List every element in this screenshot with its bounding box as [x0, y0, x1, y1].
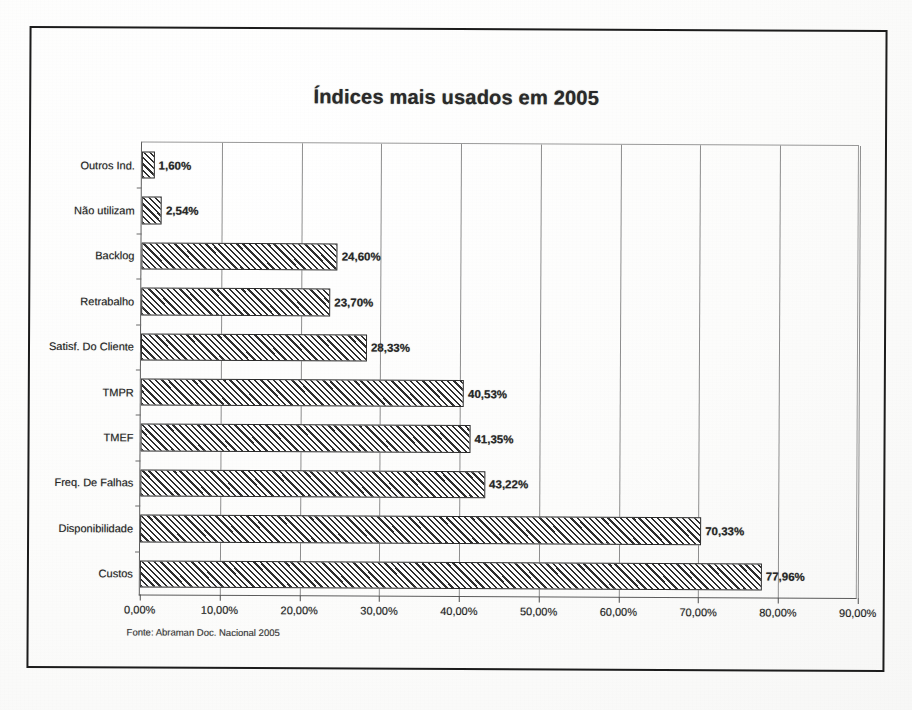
bar-value-label: 40,53% — [468, 388, 507, 400]
plot-area: 0,00%10,00%20,00%30,00%40,00%50,00%60,00… — [139, 141, 859, 599]
x-axis-label: 40,00% — [414, 605, 504, 617]
x-axis-label: 90,00% — [813, 607, 903, 619]
y-axis-tick — [137, 188, 142, 189]
scanned-page: Índices mais usados em 2005 0,00%10,00%2… — [0, 0, 912, 710]
y-axis-tick — [136, 415, 141, 416]
bar-row: Retrabalho23,70% — [141, 288, 857, 319]
x-axis-tick — [220, 595, 221, 601]
y-axis-tick — [136, 279, 141, 280]
x-axis-tick — [299, 595, 300, 601]
bar — [140, 424, 470, 453]
category-label: Freq. De Falhas — [0, 476, 133, 489]
bar — [141, 379, 464, 408]
x-axis-label: 80,00% — [733, 606, 823, 618]
gridline-9000 — [858, 146, 861, 598]
x-axis-label: 50,00% — [494, 605, 584, 617]
bar-value-label: 70,33% — [705, 525, 744, 537]
y-axis-tick — [135, 460, 140, 461]
bar-row: TMPR40,53% — [141, 379, 857, 410]
y-axis-tick — [136, 369, 141, 370]
x-axis-tick — [379, 596, 380, 602]
bar-row: Custos77,96% — [140, 560, 856, 591]
y-axis-tick — [136, 324, 141, 325]
x-axis-label: 0,00% — [95, 603, 185, 615]
bar-value-label: 24,60% — [342, 251, 381, 263]
x-axis-label: 60,00% — [573, 606, 663, 618]
y-axis-tick — [135, 551, 140, 552]
bar-row: Outros Ind.1,60% — [142, 152, 858, 183]
x-axis-tick — [539, 596, 540, 602]
y-axis-tick — [137, 233, 142, 234]
bar-row: Satisf. Do Cliente28,33% — [141, 333, 857, 364]
x-axis-label: 10,00% — [174, 604, 264, 616]
category-label: TMEF — [0, 431, 134, 444]
bar-value-label: 1,60% — [159, 159, 192, 171]
bar — [142, 197, 162, 224]
bar-row: TMEF41,35% — [140, 424, 856, 455]
category-label: Disponibilidade — [0, 521, 133, 534]
bar — [140, 515, 701, 545]
category-label: Custos — [0, 567, 133, 580]
category-label: TMPR — [0, 385, 134, 398]
bar-value-label: 41,35% — [474, 433, 513, 445]
y-axis-tick — [135, 506, 140, 507]
x-axis-tick — [140, 594, 141, 600]
chart-title: Índices mais usados em 2005 — [29, 84, 883, 111]
x-axis-tick — [698, 597, 699, 603]
x-axis-label: 70,00% — [653, 606, 743, 618]
x-axis-label: 30,00% — [334, 604, 424, 616]
bar — [141, 242, 337, 270]
bar-value-label: 23,70% — [334, 296, 373, 308]
bar-row: Não utilizam2,54% — [142, 197, 858, 228]
x-axis-tick — [618, 597, 619, 603]
bar-chart-figure: Índices mais usados em 2005 0,00%10,00%2… — [26, 26, 883, 668]
bar-row: Disponibilidade70,33% — [140, 515, 856, 546]
category-label: Backlog — [0, 249, 134, 262]
bar-value-label: 2,54% — [166, 205, 199, 217]
x-axis-tick — [858, 598, 859, 604]
bar-value-label: 28,33% — [371, 342, 410, 354]
bar — [140, 469, 485, 498]
x-axis-tick — [459, 596, 460, 602]
bar — [142, 152, 155, 179]
bar — [141, 333, 367, 361]
category-label: Outros Ind. — [0, 158, 135, 171]
bar-value-label: 77,96% — [766, 571, 805, 583]
x-axis-label: 20,00% — [254, 604, 344, 616]
bar-row: Backlog24,60% — [141, 242, 857, 273]
bar-row: Freq. De Falhas43,22% — [140, 469, 856, 500]
bar — [140, 560, 762, 590]
source-note: Fonte: Abraman Doc. Nacional 2005 — [127, 626, 280, 638]
category-label: Não utilizam — [0, 204, 135, 217]
bar-value-label: 43,22% — [489, 479, 528, 491]
bar — [141, 288, 330, 316]
category-label: Retrabalho — [0, 294, 134, 307]
category-label: Satisf. Do Cliente — [0, 340, 134, 353]
x-axis-tick — [778, 598, 779, 604]
